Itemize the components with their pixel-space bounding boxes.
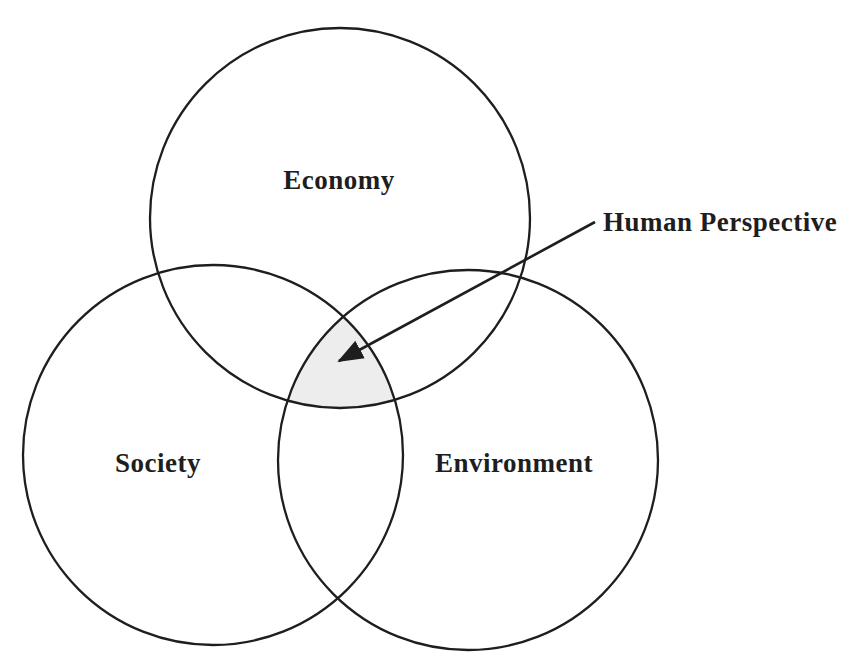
venn-diagram-page: Economy Society Environment Human Perspe… <box>0 0 857 659</box>
triple-intersection-shade <box>150 28 530 408</box>
society-label: Society <box>115 448 201 478</box>
triple-intersection-clip-group <box>150 28 530 408</box>
venn-diagram-canvas: Economy Society Environment Human Perspe… <box>0 0 857 659</box>
annotation-label: Human Perspective <box>603 207 837 237</box>
economy-label: Economy <box>283 165 395 195</box>
environment-label: Environment <box>435 448 593 478</box>
